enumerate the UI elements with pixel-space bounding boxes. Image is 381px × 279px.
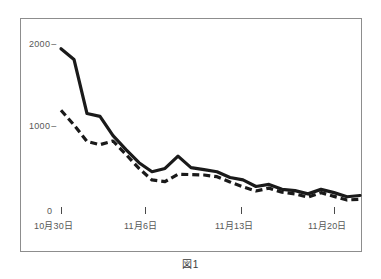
solid-series-line [61, 49, 360, 197]
x-axis-tick-mark-4 [334, 207, 335, 214]
y-axis-tick-2000: 2000– [29, 39, 57, 49]
x-axis-tick-mark-2 [145, 207, 146, 214]
x-axis-tick-mark-3 [241, 207, 242, 214]
y-tick-dash: – [51, 121, 56, 131]
x-axis-tick-mark-1 [61, 207, 62, 214]
figure-caption: 図1 [0, 256, 381, 271]
x-axis-label-nov20: 11月20日 [308, 219, 347, 232]
y-axis-tick-0: 0 [47, 206, 52, 216]
line-chart-plot [21, 19, 363, 253]
y-axis-tick-1000: 1000– [29, 121, 57, 131]
x-axis-label-nov13: 11月13日 [215, 219, 254, 232]
y-tick-dash: – [51, 39, 56, 49]
x-axis-label-nov6: 11月6日 [124, 219, 157, 232]
figure-container: 2000– 1000– 0 10月30日 11月6日 11月13日 11月20日… [0, 0, 381, 279]
x-axis-label-oct30: 10月30日 [34, 219, 73, 232]
chart-frame: 2000– 1000– 0 10月30日 11月6日 11月13日 11月20日 [20, 18, 362, 252]
